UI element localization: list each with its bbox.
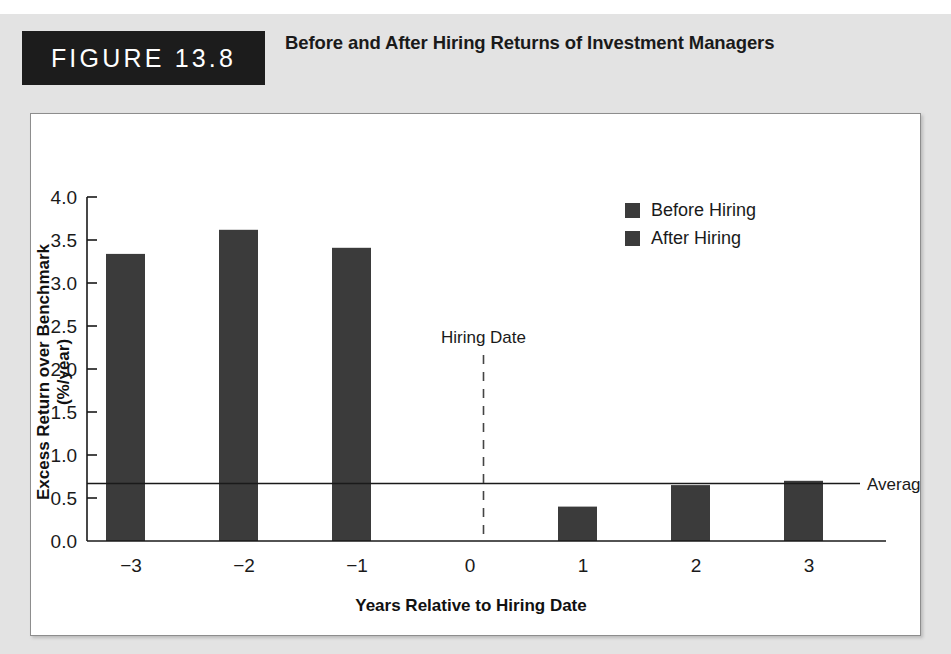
figure-number-label: FIGURE 13.8 [51,44,236,73]
y-tick-label-0-5: 0.5 [51,488,77,509]
bar-chart: Average Hiring Date 4.0 3.5 [31,114,920,635]
x-tick-label--3: −3 [120,555,142,576]
y-tick-label-4-0: 4.0 [51,187,77,208]
y-tick-label-0-0: 0.0 [51,531,77,552]
x-tick-label-3: 3 [804,555,815,576]
figure-header: FIGURE 13.8 Before and After Hiring Retu… [0,14,951,100]
bar-year--2 [219,230,258,541]
legend-label-after-hiring: After Hiring [651,228,741,248]
y-tick-label-2-5: 2.5 [51,316,77,337]
y-axis-ticks [87,197,97,498]
x-axis-tick-labels: −3 −2 −1 0 1 2 3 [120,555,814,576]
figure-title: Before and After Hiring Returns of Inves… [285,30,845,55]
x-tick-label--2: −2 [233,555,255,576]
x-tick-label-1: 1 [578,555,589,576]
y-tick-label-3-5: 3.5 [51,230,77,251]
bar-year-1 [558,507,597,541]
x-tick-label-0: 0 [465,555,476,576]
y-axis-title-line-2: (%/year) [54,339,73,405]
y-axis-title-line-1: Excess Return over Benchmark [34,243,53,500]
bar-year--3 [106,254,145,541]
bar-year-2 [671,485,710,541]
bars-group [106,230,823,541]
hiring-date-label: Hiring Date [441,328,526,347]
y-tick-label-1-0: 1.0 [51,445,77,466]
y-tick-label-3-0: 3.0 [51,273,77,294]
figure-number-badge: FIGURE 13.8 [22,31,265,85]
x-tick-label--1: −1 [346,555,368,576]
bar-year--1 [332,248,371,541]
legend-swatch-before-hiring [625,203,640,218]
average-line-label: Average [867,475,920,494]
chart-panel: Average Hiring Date 4.0 3.5 [30,113,921,636]
x-tick-label-2: 2 [691,555,702,576]
legend-swatch-after-hiring [625,231,640,246]
x-axis-title: Years Relative to Hiring Date [355,596,586,615]
figure-page: FIGURE 13.8 Before and After Hiring Retu… [0,0,951,654]
bar-year-3 [784,481,823,541]
legend-label-before-hiring: Before Hiring [651,200,756,220]
chart-legend: Before Hiring After Hiring [625,200,756,248]
